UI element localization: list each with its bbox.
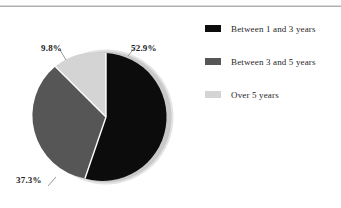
legend-item-label: Between 3 and 5 years [231, 57, 316, 67]
leader-line-37-3 [48, 177, 56, 186]
chart-page: 52.9% 37.3% 9.8% Between 1 and 3 years B… [0, 0, 341, 208]
data-label-over-5-years: 9.8% [41, 43, 62, 53]
pie-chart: 52.9% 37.3% 9.8% [0, 12, 200, 208]
header-divider [0, 5, 341, 7]
data-label-between-3-and-5-years: 37.3% [16, 175, 42, 185]
legend-item-label: Over 5 years [231, 90, 279, 100]
legend-item-over-5-years[interactable]: Over 5 years [204, 78, 341, 111]
legend-item-label: Between 1 and 3 years [231, 24, 316, 34]
legend-swatch-icon [204, 24, 222, 33]
legend-item-between-1-and-3-years[interactable]: Between 1 and 3 years [204, 12, 341, 45]
legend-swatch-icon [204, 57, 222, 66]
legend-swatch-icon [204, 90, 222, 99]
legend-item-between-3-and-5-years[interactable]: Between 3 and 5 years [204, 45, 341, 78]
data-label-between-1-and-3-years: 52.9% [131, 43, 157, 53]
chart-legend: Between 1 and 3 years Between 3 and 5 ye… [204, 12, 341, 111]
